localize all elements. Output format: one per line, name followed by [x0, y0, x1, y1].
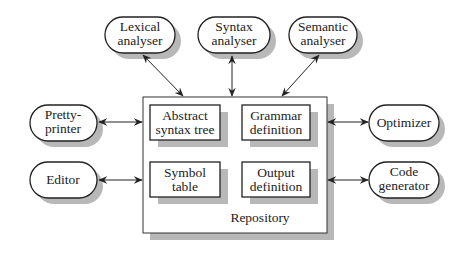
svg-text:analyser: analyser [212, 33, 257, 48]
repository-label: Repository [230, 210, 289, 225]
svg-text:analyser: analyser [301, 33, 346, 48]
symbol-table-box: Symbol table [150, 162, 228, 204]
svg-text:syntax tree: syntax tree [156, 122, 215, 137]
svg-text:Abstract: Abstract [162, 108, 208, 123]
svg-text:Optimizer: Optimizer [377, 115, 432, 130]
syntax-analyser-node: Syntax analyser [198, 17, 276, 59]
svg-text:generator: generator [379, 178, 430, 193]
grammar-definition-box: Grammar definition [242, 105, 318, 147]
svg-text:table: table [172, 179, 198, 194]
abstract-syntax-tree-box: Abstract syntax tree [150, 105, 228, 147]
svg-text:Syntax: Syntax [215, 19, 253, 34]
svg-text:definition: definition [250, 122, 303, 137]
svg-text:Pretty-: Pretty- [45, 107, 82, 122]
pretty-printer-node: Pretty- printer [30, 105, 103, 147]
svg-text:Output: Output [257, 165, 295, 180]
svg-text:printer: printer [45, 121, 81, 136]
semantic-analyser-node: Semantic analyser [289, 17, 363, 59]
lexical-repository-arrow [143, 55, 183, 96]
editor-node: Editor [30, 162, 103, 204]
lexical-analyser-node: Lexical analyser [105, 17, 181, 59]
semantic-repository-arrow [282, 55, 319, 96]
output-definition-box: Output definition [242, 162, 318, 204]
optimizer-node: Optimizer [369, 105, 445, 147]
svg-text:Grammar: Grammar [250, 108, 302, 123]
svg-text:definition: definition [250, 179, 303, 194]
svg-text:Symbol: Symbol [164, 165, 206, 180]
repository-architecture-diagram: Repository Abstract syntax tree Grammar … [0, 0, 471, 255]
svg-text:Semantic: Semantic [298, 19, 348, 34]
svg-text:Code: Code [390, 164, 419, 179]
svg-text:Lexical: Lexical [120, 19, 161, 34]
code-generator-node: Code generator [369, 162, 445, 204]
svg-text:analyser: analyser [118, 33, 163, 48]
svg-text:Editor: Editor [46, 172, 80, 187]
